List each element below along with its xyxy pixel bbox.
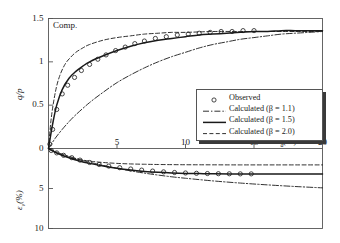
chart-figure: 00.511.55105101520q/pεv(%)εd(%)Comp.Obse… xyxy=(0,0,340,243)
ytick-label-upper-0: 0 xyxy=(0,143,44,153)
panel-note-comp: Comp. xyxy=(53,20,77,30)
ytick-label-lower-2: 10 xyxy=(0,223,44,233)
yaxis-upper-title: q/p xyxy=(14,88,24,100)
yaxis-lower-title: εv(%) xyxy=(14,190,26,210)
xtick-label-2: 10 xyxy=(176,137,196,147)
observed-marker xyxy=(175,33,179,37)
legend-label-3: Calculated (β = 2.0) xyxy=(229,127,295,136)
legend-label-0: Observed xyxy=(229,93,260,102)
observed-marker xyxy=(66,83,70,87)
ytick-label-upper-2: 1 xyxy=(0,56,44,66)
legend-label-1: Calculated (β = 1.1) xyxy=(229,104,295,113)
series-lower-2-line xyxy=(49,149,323,174)
ytick-label-upper-1: 0.5 xyxy=(0,99,44,109)
legend-marker-observed xyxy=(212,98,216,102)
ytick-label-upper-3: 1.5 xyxy=(0,13,44,23)
legend-label-2: Calculated (β = 1.5) xyxy=(229,115,295,124)
xtick-label-1: 5 xyxy=(107,137,127,147)
series-lower-1-line xyxy=(49,149,323,188)
observed-marker xyxy=(72,75,76,79)
